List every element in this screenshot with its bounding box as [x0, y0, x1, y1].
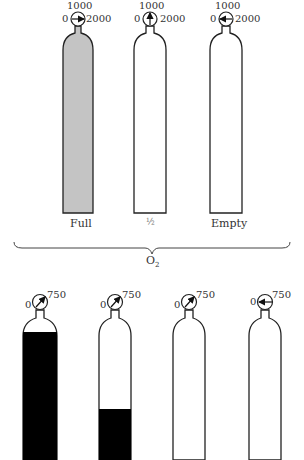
gauge-mid-label: 1000 — [67, 0, 92, 11]
cylinder-diagram — [0, 0, 304, 460]
gauge-min-label: 0 — [100, 299, 106, 310]
gauge-max-label: 750 — [196, 289, 215, 300]
gauge-max-label: 2000 — [235, 13, 260, 24]
cylinder-label-half: ½ — [146, 217, 155, 227]
cylinder-bottom-2 — [99, 295, 131, 460]
gauge-max-label: 2000 — [160, 13, 185, 24]
cylinder-bottom-1 — [23, 295, 57, 460]
gauge-min-label: 0 — [134, 13, 140, 24]
gauge-min-label: 0 — [250, 296, 256, 307]
gauge-max-label: 2000 — [86, 13, 111, 24]
group-brace — [14, 242, 290, 254]
cylinder-full — [63, 12, 93, 213]
gauge-min-label: 0 — [210, 13, 216, 24]
gas-label: O2 — [146, 254, 160, 269]
gauge-min-label: 0 — [25, 299, 31, 310]
cylinder-label-empty: Empty — [211, 217, 247, 230]
cylinder-bottom-3 — [173, 295, 205, 460]
gauge-mid-label: 1000 — [139, 0, 164, 11]
cylinder-half — [134, 12, 166, 213]
gauge-max-label: 750 — [47, 289, 66, 300]
gauge-max-label: 750 — [272, 289, 291, 300]
cylinder-label-full: Full — [70, 217, 92, 230]
gauge-min-label: 0 — [62, 13, 68, 24]
gauge-min-label: 0 — [174, 299, 180, 310]
gauge-mid-label: 1000 — [215, 0, 240, 11]
cylinder-bottom-4 — [249, 295, 281, 460]
cylinder-empty — [210, 12, 242, 213]
gauge-max-label: 750 — [122, 289, 141, 300]
